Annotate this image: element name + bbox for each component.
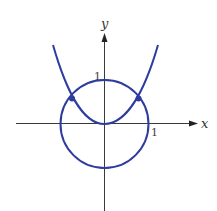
y-axis-arrow-icon: [102, 33, 108, 42]
x-axis-arrow-icon: [189, 121, 198, 127]
intersection-point-right: [136, 96, 142, 102]
y-axis-label: y: [100, 16, 109, 31]
x-axis-label: x: [201, 116, 209, 131]
intersection-point-left: [69, 96, 75, 102]
x-tick-label-1: 1: [151, 126, 158, 139]
circle-parabola-diagram: x y 1 1: [0, 0, 217, 211]
parabola-curve: [53, 45, 158, 124]
